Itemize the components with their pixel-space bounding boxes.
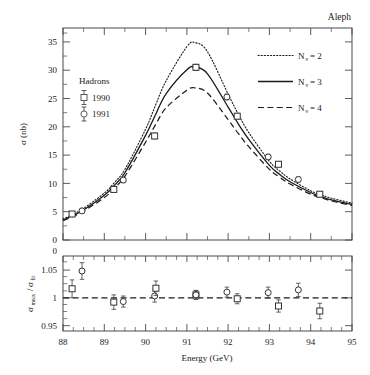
marker-square [317, 191, 323, 197]
ratio-yaxis-title: σ meas / σ fit [25, 275, 36, 312]
marker-circle-1991 [81, 111, 87, 117]
ratio-ylabel-denominator: σ [25, 282, 35, 287]
curve-legend-item-nnu4: N ν = 4 [258, 103, 322, 114]
ratio-y-axis [63, 262, 352, 326]
data-point-1991 [120, 177, 126, 183]
data-point-1990 [234, 294, 240, 304]
legend-symbol-nnu2: N [298, 51, 305, 61]
marker-circle [152, 293, 158, 299]
main-x-ticks [63, 28, 352, 240]
xtick-90: 90 [141, 337, 151, 347]
marker-square [234, 296, 240, 302]
xtick-92: 92 [224, 337, 233, 347]
marker-square [276, 161, 282, 167]
data-point-1990 [69, 280, 75, 298]
marker-circle [265, 154, 271, 160]
hadrons-legend-1991: 1991 [81, 107, 110, 121]
ratio-ytick-1: 1 [53, 293, 58, 303]
ratio-ylabel-denominator-sub: fit [30, 275, 36, 280]
ratio-top-tick-label: 0 [53, 246, 58, 256]
marker-square [193, 64, 199, 70]
ratio-data-points [69, 263, 323, 319]
marker-square [152, 133, 158, 139]
figure-container: Aleph [0, 0, 370, 375]
data-point-1991 [79, 208, 85, 214]
curve-legend-item-nnu3: N ν = 3 [258, 77, 322, 88]
experiment-label: Aleph [328, 12, 351, 22]
xtick-88: 88 [59, 337, 69, 347]
plot-svg: Aleph [0, 0, 370, 375]
main-ytick-15: 15 [48, 150, 58, 160]
xtick-89: 89 [100, 337, 110, 347]
legend-subscript-nnu4: ν [306, 107, 309, 114]
data-point-1990 [234, 113, 240, 119]
main-ytick-0: 0 [53, 235, 58, 245]
marker-square [111, 186, 117, 192]
data-point-1991 [79, 263, 85, 280]
main-ytick-5: 5 [53, 207, 58, 217]
marker-circle [120, 177, 126, 183]
marker-square [69, 211, 75, 217]
marker-circle [79, 208, 85, 214]
data-point-1990 [111, 186, 117, 192]
ratio-ytick-105: 1.05 [41, 265, 57, 275]
ratio-x-ticks [63, 256, 352, 331]
xaxis-title: Energy (GeV) [181, 353, 232, 363]
curve-nnu-3 [63, 66, 352, 220]
legend-value-nnu2: = 2 [310, 51, 322, 61]
main-ytick-30: 30 [48, 65, 58, 75]
ratio-ylabel-numerator: σ [25, 307, 35, 312]
legend-symbol-nnu3: N [298, 77, 305, 87]
data-point-1991 [224, 287, 230, 297]
legend-subscript-nnu2: ν [306, 55, 309, 62]
marker-square [234, 113, 240, 119]
data-point-1991 [224, 94, 230, 100]
hadrons-legend-label-1990: 1990 [92, 93, 111, 103]
marker-square [317, 308, 323, 314]
ratio-ylabel-slash: / [25, 288, 35, 291]
marker-square [276, 303, 282, 309]
marker-circle [224, 94, 230, 100]
data-point-1990 [111, 295, 117, 309]
data-point-1991 [295, 283, 301, 296]
marker-circle [265, 290, 271, 296]
marker-circle [120, 299, 126, 305]
main-y-axis: 0 5 10 15 20 25 30 35 [48, 33, 352, 245]
hadrons-annotation-title: Hadrons [79, 76, 110, 86]
xtick-93: 93 [265, 337, 275, 347]
data-point-1990 [193, 64, 199, 70]
data-point-1990 [276, 300, 282, 312]
main-yaxis-title: σ (nb) [18, 123, 28, 145]
main-ytick-20: 20 [48, 122, 58, 132]
main-data-points [69, 64, 323, 217]
curve-legend-item-nnu2: N ν = 2 [258, 51, 322, 62]
legend-subscript-nnu3: ν [306, 81, 309, 88]
xtick-94: 94 [306, 337, 316, 347]
marker-square [111, 299, 117, 305]
marker-square-1990 [81, 95, 87, 101]
xtick-95: 95 [348, 337, 358, 347]
data-point-1990 [69, 211, 75, 217]
curve-legend: N ν = 2 N ν = 3 N ν = 4 [258, 51, 322, 114]
xaxis-tick-labels: 88 89 90 91 92 93 94 95 [59, 337, 358, 347]
curve-nnu-2 [63, 42, 352, 219]
data-point-1990 [317, 303, 323, 319]
legend-value-nnu3: = 3 [310, 77, 322, 87]
marker-circle [193, 292, 199, 298]
data-point-1990 [152, 133, 158, 139]
data-point-1991 [295, 177, 301, 183]
ratio-panel-frame [63, 256, 352, 331]
marker-square [69, 286, 75, 292]
ratio-ylabel-numerator-sub: meas [30, 294, 36, 306]
hadrons-legend-1990: 1990 [81, 91, 111, 105]
marker-square [153, 285, 159, 291]
curve-group [63, 42, 352, 221]
legend-symbol-nnu4: N [298, 103, 305, 113]
data-point-1990 [317, 191, 323, 197]
xtick-91: 91 [182, 337, 191, 347]
marker-circle [79, 268, 85, 274]
marker-circle [295, 177, 301, 183]
marker-circle [224, 289, 230, 295]
main-ytick-35: 35 [48, 37, 58, 47]
data-point-1991 [152, 290, 158, 302]
